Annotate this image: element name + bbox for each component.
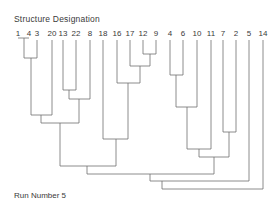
merge-bracket: [60, 123, 116, 166]
leaf-label: 4: [27, 29, 32, 38]
merge-bracket: [117, 40, 140, 83]
merge-bracket: [87, 157, 214, 174]
merge-bracket: [223, 40, 236, 132]
merge-bracket: [187, 40, 211, 149]
leaf-label: 4: [168, 29, 173, 38]
merge-bracket: [31, 40, 52, 115]
merge-bracket: [170, 40, 183, 75]
leaf-label: 2: [234, 29, 239, 38]
leaf-label: 13: [59, 29, 68, 38]
leaf-label: 22: [72, 29, 81, 38]
leaf-label: 10: [193, 29, 202, 38]
leaf-label: 9: [154, 29, 159, 38]
leaf-label: 16: [113, 29, 122, 38]
leaf-labels: 143201322818161712946101172514: [16, 29, 268, 38]
merge-bracket: [41, 99, 79, 123]
leaf-label: 5: [247, 29, 252, 38]
dendrogram: 143201322818161712946101172514: [0, 0, 279, 209]
leaf-label: 17: [126, 29, 135, 38]
merge-bracket: [150, 40, 249, 181]
leaf-label: 8: [88, 29, 93, 38]
leaf-label: 18: [99, 29, 108, 38]
leaf-label: 11: [207, 29, 216, 38]
leaf-label: 20: [48, 29, 57, 38]
merge-bracket: [24, 38, 37, 58]
leaf-label: 7: [221, 29, 226, 38]
merge-bracket: [162, 40, 263, 189]
merge-bracket: [103, 40, 128, 139]
leaf-label: 12: [139, 29, 148, 38]
merge-bracket: [176, 40, 197, 107]
merge-bracket: [130, 40, 150, 66]
merge-bracket: [143, 40, 156, 54]
leaf-label: 14: [259, 29, 268, 38]
leaf-label: 6: [181, 29, 186, 38]
merge-bracket: [63, 40, 76, 90]
leaf-label: 1: [16, 29, 21, 38]
merge-bracket: [199, 132, 229, 157]
dendrogram-branches: [18, 38, 263, 189]
leaf-label: 3: [35, 29, 40, 38]
run-number-caption: Run Number 5: [14, 191, 66, 200]
